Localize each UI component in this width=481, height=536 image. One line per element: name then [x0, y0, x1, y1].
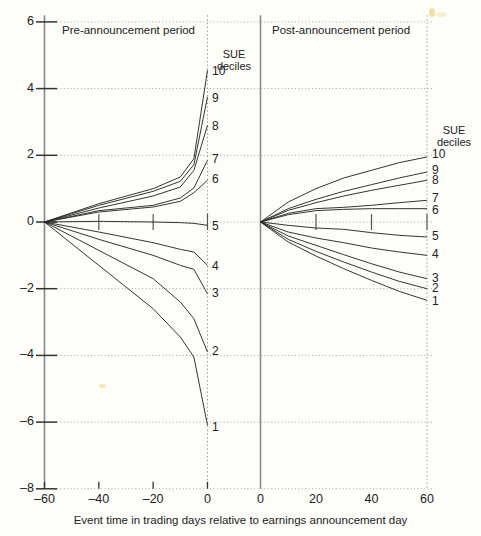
x-axis-caption: Event time in trading days relative to e…: [0, 514, 481, 526]
series-line-decile-7: [45, 160, 208, 222]
scan-speck-icon: [99, 384, 106, 388]
decile-label-2: 2: [432, 281, 439, 295]
series-line-decile-6: [261, 209, 428, 222]
series-line-decile-4: [261, 222, 428, 255]
decile-label-7: 7: [212, 152, 219, 166]
x-axis-tick-label-post: 60: [407, 492, 447, 506]
decile-label-4: 4: [212, 259, 219, 273]
series-line-decile-1: [45, 222, 208, 425]
series-lines-pre-announcement: [45, 70, 208, 425]
decile-label-4: 4: [432, 247, 439, 261]
gridlines-layer: [57, 22, 432, 489]
x-axis-tick-label-pre: –40: [79, 492, 119, 506]
y-axis-tick-label: 6: [8, 14, 34, 28]
x-axis-tick-label-post: 20: [296, 492, 336, 506]
sue-legend-title-line1-post: SUE: [432, 124, 476, 136]
y-axis-tick-label: 0: [8, 214, 34, 228]
series-line-decile-2: [261, 222, 428, 289]
series-line-decile-4: [45, 222, 208, 265]
x-axis-tick-label-post: 40: [352, 492, 392, 506]
decile-label-8: 8: [212, 119, 219, 133]
series-line-decile-10: [261, 157, 428, 222]
y-axis-tick-label: 4: [8, 81, 34, 95]
scan-speck-icon: [436, 12, 447, 17]
x-axis-tick-label-pre: –60: [25, 492, 65, 506]
chart-plot-area: [0, 0, 481, 536]
decile-label-9: 9: [212, 91, 219, 105]
decile-label-2: 2: [212, 344, 219, 358]
x-axis-tick-label-pre: –20: [133, 492, 173, 506]
decile-label-5: 5: [432, 229, 439, 243]
y-axis-tick-label: 2: [8, 147, 34, 161]
decile-label-8: 8: [432, 173, 439, 187]
sue-deciles-legend-title-post: SUE deciles: [432, 124, 476, 149]
series-line-decile-3: [45, 222, 208, 294]
axis-ticks-layer: [36, 22, 427, 489]
decile-label-10: 10: [432, 147, 445, 161]
decile-label-10: 10: [212, 64, 225, 78]
post-announcement-period-label: Post-announcement period: [272, 24, 410, 36]
decile-label-5: 5: [212, 219, 219, 233]
decile-label-6: 6: [432, 203, 439, 217]
x-axis-tick-label-pre: 0: [188, 492, 228, 506]
series-lines-post-announcement: [261, 157, 428, 300]
x-axis-tick-label-post: 0: [241, 492, 281, 506]
decile-label-1: 1: [432, 294, 439, 308]
y-axis-tick-label: –4: [8, 347, 34, 361]
sue-legend-title-line1: SUE: [212, 48, 256, 60]
y-axis-tick-label: –2: [8, 281, 34, 295]
pre-announcement-period-label: Pre-announcement period: [62, 24, 195, 36]
decile-label-1: 1: [212, 420, 219, 434]
chart-container: 6420–2–4–6–8 –60–40–2000204060 Pre-annou…: [0, 0, 481, 536]
scan-speck-icon: [429, 8, 435, 17]
decile-label-6: 6: [212, 172, 219, 186]
series-line-decile-9: [45, 97, 208, 222]
y-axis-tick-label: –6: [8, 414, 34, 428]
decile-label-3: 3: [212, 286, 219, 300]
